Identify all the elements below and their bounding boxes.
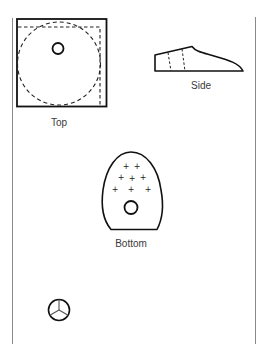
wheel-figure: [49, 300, 70, 321]
top-view-hole-circle: [53, 43, 64, 54]
bottom-view-label: Bottom: [115, 239, 147, 249]
mark-icon: +: [128, 185, 135, 194]
mark-icon: +: [140, 173, 147, 182]
mark-icon: +: [123, 162, 130, 171]
mark-icon: +: [134, 162, 141, 171]
diagram-canvas: + + + + + + + +: [0, 0, 260, 344]
top-view-outer-square: [17, 19, 107, 107]
side-view-dashed-line-1: [168, 53, 171, 72]
mark-icon: +: [145, 185, 152, 194]
mark-icon: +: [112, 185, 119, 194]
side-view-figure: [155, 47, 243, 72]
top-view-dashed-frame: [18, 27, 100, 106]
wheel-spoke-lower-left: [50, 310, 59, 315]
mark-icon: +: [118, 173, 125, 182]
mark-icon: +: [129, 174, 136, 183]
wheel-spoke-lower-right: [59, 310, 68, 315]
side-view-outline: [155, 47, 243, 72]
bottom-view-hole-circle: [125, 201, 138, 214]
top-view-label: Top: [51, 118, 67, 128]
bottom-view-figure: + + + + + + + +: [102, 152, 162, 230]
top-view-figure: [17, 19, 107, 107]
top-view-dashed-circle: [18, 22, 101, 105]
bottom-view-marks: + + + + + + + +: [112, 162, 152, 194]
side-view-label: Side: [191, 81, 211, 91]
side-view-dashed-line-2: [182, 49, 185, 71]
